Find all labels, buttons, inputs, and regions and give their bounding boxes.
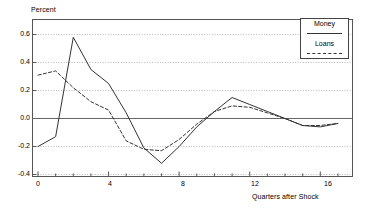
legend-item-loans: Loans — [301, 39, 348, 59]
chart-legend: Money Loans — [300, 18, 349, 59]
legend-line-solid — [307, 33, 342, 34]
chart-figure: Percent Quarters after Shock 0.6 0.4 0.2… — [0, 0, 366, 209]
axis-ticks — [33, 35, 338, 177]
legend-line-dashed — [307, 53, 342, 54]
legend-item-money: Money — [301, 19, 348, 39]
data-series-group — [38, 37, 338, 163]
series-line-money — [38, 37, 338, 163]
legend-label: Money — [301, 20, 348, 27]
legend-label: Loans — [301, 40, 348, 47]
series-line-loans — [38, 71, 338, 151]
